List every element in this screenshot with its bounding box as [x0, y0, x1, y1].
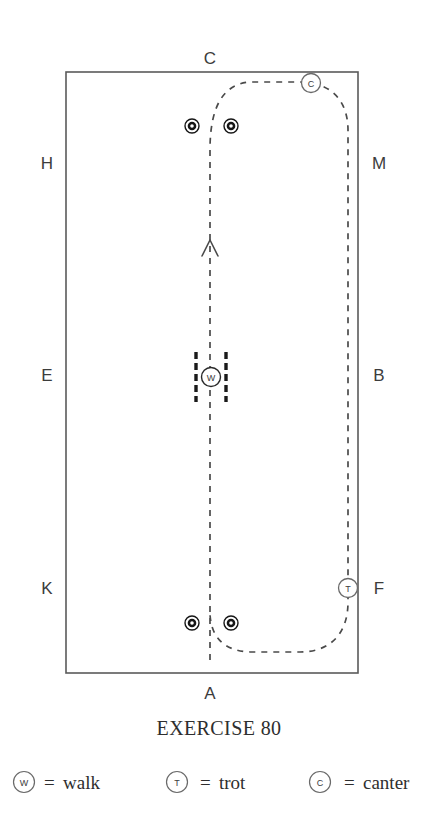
- legend-item-walk: W = walk: [14, 772, 101, 794]
- gait-marker-trot-letter: T: [345, 584, 351, 594]
- cone-marker: [224, 616, 238, 630]
- legend-walk-equals: =: [44, 772, 55, 793]
- arena-label-K: K: [41, 579, 53, 598]
- arena-label-B: B: [373, 366, 384, 385]
- arena-label-E: E: [41, 366, 52, 385]
- arena-diagram: C W T C A H E K M B F EXERCISE 80 W =: [0, 0, 438, 823]
- ridden-path-dashed: [210, 82, 348, 660]
- gait-marker-canter: C: [302, 74, 321, 93]
- arena-label-A: A: [204, 684, 216, 703]
- arena-label-C: C: [204, 49, 216, 68]
- gait-marker-canter-letter: C: [308, 79, 315, 89]
- legend-trot-symbol: T: [174, 778, 180, 788]
- legend-canter-symbol: C: [317, 778, 324, 788]
- legend: W = walk T = trot C = canter: [14, 772, 411, 794]
- exercise-title: EXERCISE 80: [157, 717, 282, 739]
- exercise-diagram-page: C W T C A H E K M B F EXERCISE 80 W =: [0, 0, 438, 823]
- gait-marker-walk: W: [202, 368, 221, 387]
- legend-item-trot: T = trot: [167, 772, 247, 794]
- cone-marker-pair-bottom: [185, 616, 238, 630]
- legend-canter-label: canter: [363, 772, 410, 793]
- legend-walk-label: walk: [63, 772, 100, 793]
- arena-label-H: H: [41, 154, 53, 173]
- arena-label-F: F: [374, 579, 384, 598]
- cone-marker: [185, 119, 199, 133]
- legend-walk-symbol: W: [20, 778, 29, 788]
- legend-item-canter: C = canter: [310, 772, 411, 794]
- legend-canter-equals: =: [344, 772, 355, 793]
- gait-marker-trot: T: [339, 579, 358, 598]
- cone-marker: [224, 119, 238, 133]
- gait-marker-walk-letter: W: [207, 373, 216, 383]
- arena-label-M: M: [372, 154, 386, 173]
- legend-trot-label: trot: [219, 772, 246, 793]
- cone-marker: [185, 616, 199, 630]
- legend-trot-equals: =: [200, 772, 211, 793]
